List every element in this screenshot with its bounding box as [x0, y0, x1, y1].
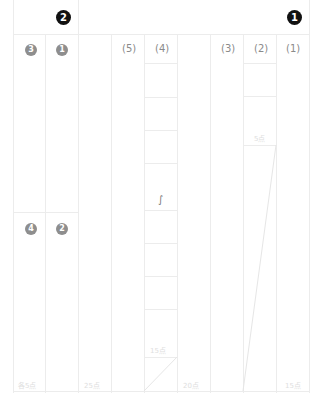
- section2-col-divider: [45, 34, 46, 393]
- question-label-4: (4): [155, 43, 169, 54]
- points-q1: 15点: [285, 380, 301, 390]
- item-3-number: 3: [28, 46, 34, 54]
- q4-box-line: [144, 130, 177, 131]
- points-q4-sub: 15点: [150, 345, 166, 355]
- border-left: [13, 0, 14, 393]
- section2-row-divider: [13, 212, 78, 213]
- item-2-number: 2: [59, 225, 65, 233]
- q4-box-line: [144, 210, 177, 211]
- question-label-2: (2): [254, 43, 268, 54]
- section-2-number: 2: [60, 13, 67, 23]
- col-divider-b: [210, 34, 211, 393]
- item-1-number: 1: [59, 46, 65, 54]
- question-label-3: (3): [221, 43, 235, 54]
- points-section2: 各5点: [18, 380, 36, 390]
- section-1-number: 1: [291, 13, 298, 23]
- question-label-5: (5): [122, 43, 136, 54]
- points-q2-sub: 5点: [254, 133, 265, 143]
- section-1-badge: 1: [287, 10, 302, 25]
- q4-box-line: [144, 63, 177, 64]
- q4-box-line: [144, 276, 177, 277]
- border-right: [309, 0, 310, 393]
- q2-box-line: [243, 63, 276, 64]
- item-1-badge: 1: [56, 44, 68, 56]
- border-bottom: [13, 391, 309, 392]
- q4-answer-mark: ∫: [158, 194, 163, 205]
- col-divider-4: [177, 34, 178, 393]
- q4-box-line: [144, 97, 177, 98]
- points-q3: 20点: [183, 380, 199, 390]
- q2-diagonal-slash: [243, 145, 276, 391]
- col-divider-2-1: [276, 34, 277, 393]
- q2-box-line: [243, 96, 276, 97]
- item-3-badge: 3: [25, 44, 37, 56]
- header-divider: [13, 34, 309, 35]
- col-divider-a: [111, 34, 112, 393]
- q4-box-line: [144, 309, 177, 310]
- section-2-badge: 2: [56, 10, 71, 25]
- q4-box-line: [144, 163, 177, 164]
- item-2-badge: 2: [56, 223, 68, 235]
- section-divider: [78, 0, 79, 393]
- q4-box-line: [144, 243, 177, 244]
- question-label-1: (1): [286, 43, 300, 54]
- points-q5: 25点: [84, 380, 100, 390]
- item-4-number: 4: [28, 225, 34, 233]
- item-4-badge: 4: [25, 223, 37, 235]
- q4-diagonal-slash: [144, 357, 177, 391]
- col-divider-5-4: [144, 34, 145, 393]
